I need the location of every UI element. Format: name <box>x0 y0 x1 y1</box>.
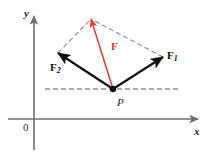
y-axis-label: y <box>24 8 29 19</box>
point-p-dot <box>110 86 116 92</box>
dashed-construction-lines <box>45 19 178 89</box>
parallelogram-side-left <box>58 19 91 53</box>
vector-f1-label: F1 <box>167 50 178 63</box>
point-p-label: P <box>117 97 124 108</box>
vector-f1-symbol: F <box>167 49 174 61</box>
vector-f2-symbol: F <box>50 61 57 73</box>
vector-f2-label: F2 <box>50 62 61 75</box>
vector-f2-arrow <box>58 53 113 89</box>
vector-diagram-figure: y x 0 P F1 F2 F <box>0 0 213 156</box>
vector-f2-subscript: 2 <box>57 66 61 75</box>
origin-label: 0 <box>23 122 29 133</box>
resultant-vector-f-label: F <box>111 41 118 52</box>
x-axis-label: x <box>194 126 200 137</box>
vector-f1-subscript: 1 <box>174 54 178 63</box>
diagram-canvas <box>0 0 213 156</box>
vector-f-arrow <box>91 19 113 89</box>
vector-f1-arrow <box>113 57 163 89</box>
